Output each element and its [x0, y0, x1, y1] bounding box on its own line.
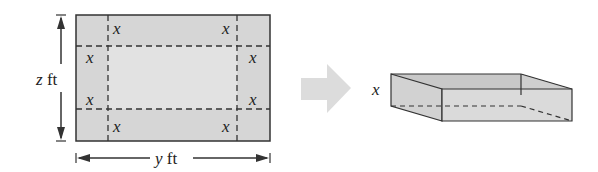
arrow-right-icon: [256, 154, 269, 162]
cut-label-br-bottom: x: [221, 117, 230, 136]
box-height-label: x: [371, 80, 380, 99]
cut-label-tr-side: x: [248, 48, 257, 67]
cut-label-bl-side: x: [85, 90, 94, 109]
arrow-down-icon: [57, 127, 65, 140]
flat-sheet: x x x x x x x x: [76, 15, 270, 141]
width-dimension: y ft: [76, 149, 270, 168]
cut-label-tl-top: x: [112, 19, 121, 38]
cut-label-bl-bottom: x: [112, 117, 121, 136]
arrow-up-icon: [57, 16, 65, 29]
cut-label-tr-top: x: [221, 19, 230, 38]
transform-arrow-icon: [301, 64, 351, 113]
height-dimension: z ft: [35, 15, 66, 141]
arrow-left-icon: [77, 154, 90, 162]
cut-label-br-side: x: [248, 90, 257, 109]
cut-label-tl-side: x: [85, 48, 94, 67]
open-box-diagram: x x x x x x x x z ft y ft: [0, 0, 598, 172]
open-box: x: [371, 74, 572, 121]
height-label: z ft: [35, 70, 58, 89]
width-label: y ft: [153, 149, 177, 168]
